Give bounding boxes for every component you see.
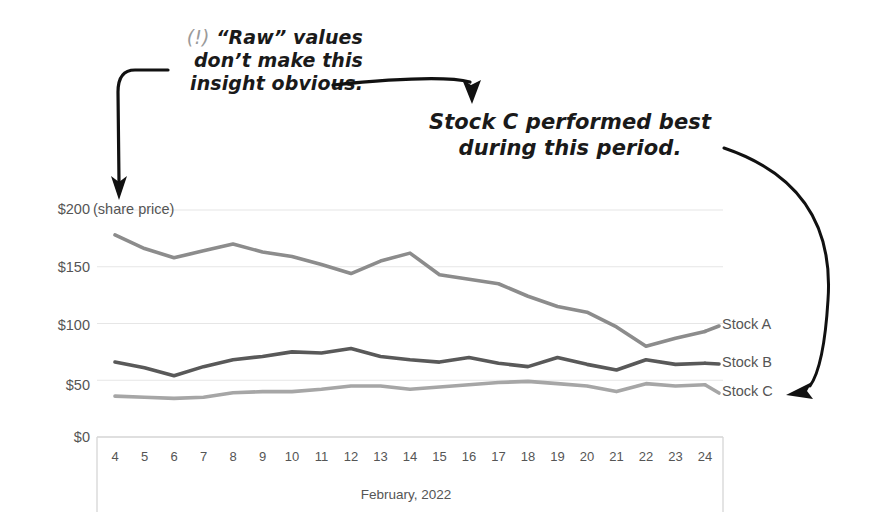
gridlines	[97, 210, 723, 437]
legend-line-stubs	[705, 326, 719, 393]
xtick-label: 11	[308, 449, 336, 464]
legend-stub-stock-b	[705, 363, 719, 364]
xtick-label: 9	[249, 449, 277, 464]
legend-label-stock-b: Stock B	[722, 354, 772, 370]
x-axis-title: February, 2022	[0, 487, 872, 502]
ytick-label-100: $100	[26, 317, 90, 333]
ytick-label-50: $50	[26, 377, 90, 393]
legend-label-stock-a: Stock A	[722, 316, 771, 332]
xtick-label: 4	[101, 449, 129, 464]
xtick-label: 16	[455, 449, 483, 464]
chart-canvas: (!) “Raw” values don’t make this insight…	[0, 0, 872, 525]
series-line-stock-b	[115, 348, 705, 375]
ytick-label-200: $200	[26, 201, 90, 217]
xtick-label: 17	[485, 449, 513, 464]
legend-stub-stock-a	[705, 326, 719, 331]
series-line-stock-a	[115, 235, 705, 346]
xtick-label: 12	[337, 449, 365, 464]
xtick-label: 5	[131, 449, 159, 464]
series-lines	[115, 235, 705, 398]
legend-stub-stock-c	[705, 385, 719, 393]
series-line-stock-c	[115, 381, 705, 398]
xtick-label: 14	[396, 449, 424, 464]
xtick-label: 22	[632, 449, 660, 464]
y-axis-unit-note: (share price)	[93, 201, 174, 217]
xtick-label: 19	[544, 449, 572, 464]
xtick-label: 21	[603, 449, 631, 464]
xtick-label: 13	[367, 449, 395, 464]
xtick-label: 15	[426, 449, 454, 464]
xtick-label: 7	[190, 449, 218, 464]
plot-area	[0, 0, 872, 525]
xtick-label: 24	[691, 449, 719, 464]
legend-label-stock-c: Stock C	[722, 383, 773, 399]
ytick-label-0: $0	[26, 429, 90, 445]
xtick-label: 18	[514, 449, 542, 464]
xtick-label: 6	[160, 449, 188, 464]
xtick-label: 23	[662, 449, 690, 464]
x-axis-title-text: February, 2022	[361, 487, 452, 502]
xtick-label: 8	[219, 449, 247, 464]
ytick-label-150: $150	[26, 259, 90, 275]
xtick-label: 20	[573, 449, 601, 464]
xtick-label: 10	[278, 449, 306, 464]
